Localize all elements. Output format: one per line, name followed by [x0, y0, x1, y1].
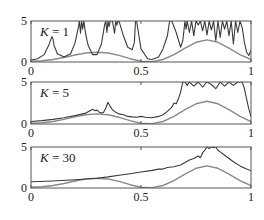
y-tick-label: 0: [21, 117, 27, 131]
true-function-line: [31, 166, 251, 188]
panel-k30: 00.5105K = 30: [21, 140, 254, 204]
panel-k1: 00.5105K = 1: [21, 14, 254, 78]
x-tick-label: 0.5: [134, 190, 149, 204]
true-function-line: [31, 101, 251, 123]
figure: 00.5105K = 1 00.5105K = 5 00.5105K = 30: [0, 0, 264, 220]
x-tick-label: 0: [28, 64, 34, 78]
k-label: K = 1: [39, 24, 69, 39]
x-tick-label: 0.5: [134, 126, 149, 140]
k-label: K = 30: [39, 150, 76, 165]
x-tick-label: 1: [248, 126, 254, 140]
true-function-line: [31, 40, 251, 62]
x-tick-label: 0: [28, 126, 34, 140]
x-tick-label: 1: [248, 64, 254, 78]
y-tick-label: 5: [21, 14, 27, 28]
y-tick-label: 0: [21, 55, 27, 69]
y-tick-label: 0: [21, 181, 27, 195]
k-label: K = 5: [39, 85, 69, 100]
x-tick-label: 1: [248, 190, 254, 204]
y-tick-label: 5: [21, 75, 27, 89]
y-tick-label: 5: [21, 140, 27, 154]
x-tick-label: 0: [28, 190, 34, 204]
x-tick-label: 0.5: [134, 64, 149, 78]
panel-k5: 00.5105K = 5: [21, 75, 254, 140]
